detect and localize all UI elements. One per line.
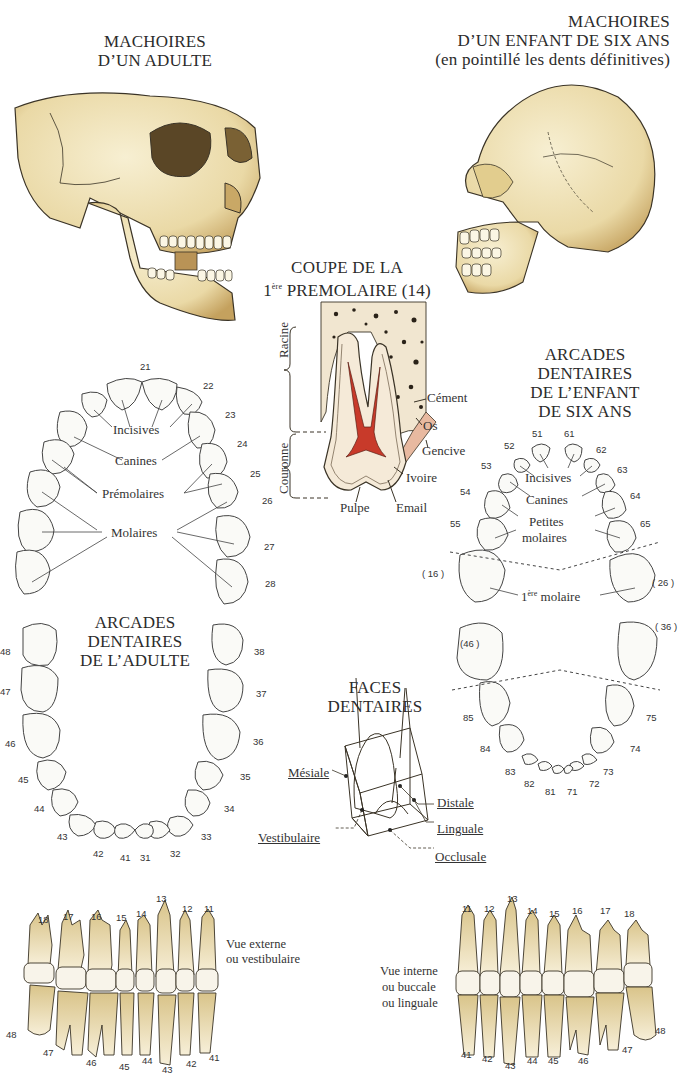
tooth-faces-title: FACES DENTAIRES [310,678,440,716]
first-molar-sup: ère [528,589,538,598]
tooth-number-48: 48 [0,646,11,657]
ext-upper-11: 11 [204,903,214,914]
occlusal-face-label: Occlusale [435,849,486,865]
tooth-number-45: 45 [18,774,29,785]
tooth-number-64: 64 [630,490,641,501]
int-lower-45: 45 [548,1055,559,1066]
first-molar-label: 1ère molaire [521,589,580,605]
tooth-number-81: 81 [545,786,556,797]
int-upper-17: 17 [600,905,611,916]
child-arches-title-line4: DE SIX ANS [510,402,660,421]
ext-lower-44: 44 [142,1055,153,1066]
tooth-number-61: 61 [564,428,575,439]
tooth-number-53: 53 [481,460,492,471]
tooth-number-82: 82 [524,778,535,789]
ext-lower-48: 48 [6,1029,17,1040]
tooth-number-36: 36 [253,736,264,747]
small-molars-label-line1: Petites [529,514,564,530]
premolar-title-line2: 1ère PREMOLAIRE (14) [262,277,432,300]
tooth-number-36-child: ( 36 ) [655,621,677,632]
vestibular-face-label: Vestibulaire [258,830,320,846]
tooth-number-46: 46 [5,738,16,749]
child-lower-arch [452,618,662,778]
tooth-number-31: 31 [140,852,151,863]
ext-upper-18: 18 [38,914,49,925]
int-upper-18: 18 [624,908,635,919]
crown-bracket-label: Couronne [276,414,292,494]
ext-lower-43: 43 [162,1064,173,1075]
tooth-number-16: ( 16 ) [422,568,444,579]
pulp-label: Pulpe [340,500,370,516]
premolar-section-title: COUPE DE LA 1ère PREMOLAIRE (14) [262,258,432,300]
tooth-faces-title-line1: FACES [310,678,440,697]
tooth-number-38: 38 [254,646,265,657]
int-upper-14: 14 [527,905,538,916]
int-lower-48: 48 [655,1025,666,1036]
child-canines-label: Canines [526,492,568,508]
int-lower-46: 46 [578,1055,589,1066]
small-molars-label-line2: molaires [522,530,567,546]
tooth-number-26-child: ( 26 ) [652,577,674,588]
dentin-label: Ivoire [406,470,437,486]
tooth-number-46-child: (46 ) [460,638,480,649]
internal-view-teeth [450,905,670,1065]
tooth-number-71: 71 [567,786,578,797]
first-molar-rest: molaire [537,589,580,604]
incisors-label: Incisives [113,422,159,438]
tooth-number-44: 44 [34,803,45,814]
int-lower-47: 47 [622,1044,633,1055]
tooth-number-55: 55 [450,518,461,529]
child-arches-title-line1: ARCADES [510,345,660,364]
tooth-number-34: 34 [224,803,235,814]
tooth-number-42: 42 [93,848,104,859]
ext-lower-42: 42 [186,1058,197,1069]
child-arches-title-line3: DE L’ENFANT [510,383,660,402]
premolar-cross-section [276,302,476,512]
root-bracket-label: Racine [276,298,292,358]
child-incisors-label: Incisives [525,470,571,486]
tooth-number-41: 41 [120,852,131,863]
internal-view-caption-line3: ou linguale [382,996,438,1011]
tooth-number-72: 72 [589,778,600,789]
adult-jaw-title-line1: MACHOIRES [70,32,240,51]
ext-upper-14: 14 [136,908,147,919]
tooth-number-24: 24 [237,438,248,449]
tooth-number-22: 22 [203,380,214,391]
ext-upper-12: 12 [182,903,193,914]
tooth-number-54: 54 [460,486,471,497]
int-upper-15: 15 [549,908,560,919]
ext-lower-46: 46 [86,1057,97,1068]
ext-lower-41: 41 [209,1052,220,1063]
cement-label: Cément [427,390,467,406]
child-arches-title: ARCADES DENTAIRES DE L’ENFANT DE SIX ANS [510,345,660,421]
int-upper-12: 12 [484,903,495,914]
child-skull-illustration [448,72,658,302]
molars-label: Molaires [111,525,157,541]
child-jaw-title-line1: MACHOIRES [380,12,670,31]
ext-lower-45: 45 [119,1061,130,1072]
external-view-caption-line1: Vue externe [226,937,286,952]
int-lower-41: 41 [461,1049,472,1060]
tooth-number-27: 27 [264,541,275,552]
int-lower-42: 42 [482,1053,493,1064]
premolars-label: Prémolaires [102,486,164,502]
child-jaw-title: MACHOIRES D’UN ENFANT DE SIX ANS (en poi… [380,12,670,69]
int-upper-11: 11 [462,903,472,914]
int-upper-16: 16 [572,905,583,916]
tooth-number-74: 74 [630,743,641,754]
tooth-number-25: 25 [250,468,261,479]
int-lower-44: 44 [527,1055,538,1066]
child-jaw-subtitle: (en pointillé les dents définitives) [380,50,670,69]
ext-upper-13: 13 [156,893,167,904]
tooth-number-51: 51 [532,428,543,439]
adult-skull-illustration [10,88,260,338]
tooth-number-37: 37 [256,688,267,699]
tooth-number-26: 26 [262,495,273,506]
adult-lower-arch [18,620,258,845]
canines-label: Canines [115,453,157,469]
premolar-ordinal: 1 [263,281,272,300]
tooth-number-65: 65 [640,518,651,529]
premolar-ordinal-sup: ère [272,282,282,291]
tooth-number-33: 33 [201,831,212,842]
external-view-teeth [10,905,230,1065]
